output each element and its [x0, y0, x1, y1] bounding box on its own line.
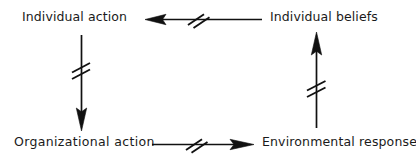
delay-marker-action-to-organizational [72, 63, 90, 79]
delay-marker-organizational-to-environmental [186, 139, 208, 153]
node-label-individual-beliefs: Individual beliefs [270, 11, 378, 24]
edge-beliefs-to-action-arrowhead [145, 14, 166, 24]
node-label-organizational-action: Organizational action [14, 136, 155, 149]
edge-organizational-to-environmental-arrowhead [230, 139, 254, 149]
edge-beliefs-to-action [145, 14, 262, 28]
node-label-environmental-response: Environmental response [262, 136, 416, 149]
edge-environmental-to-beliefs-arrowhead [311, 32, 321, 55]
edge-organizational-to-environmental [152, 139, 254, 153]
diagram-canvas: Individual action Individual beliefs Org… [0, 0, 416, 166]
delay-marker-environmental-to-beliefs [307, 81, 326, 97]
edge-action-to-organizational [72, 35, 90, 131]
delay-marker-beliefs-to-action [188, 14, 210, 28]
edge-environmental-to-beliefs [307, 32, 326, 128]
node-label-individual-action: Individual action [22, 11, 127, 24]
edge-action-to-organizational-arrowhead [76, 108, 86, 131]
